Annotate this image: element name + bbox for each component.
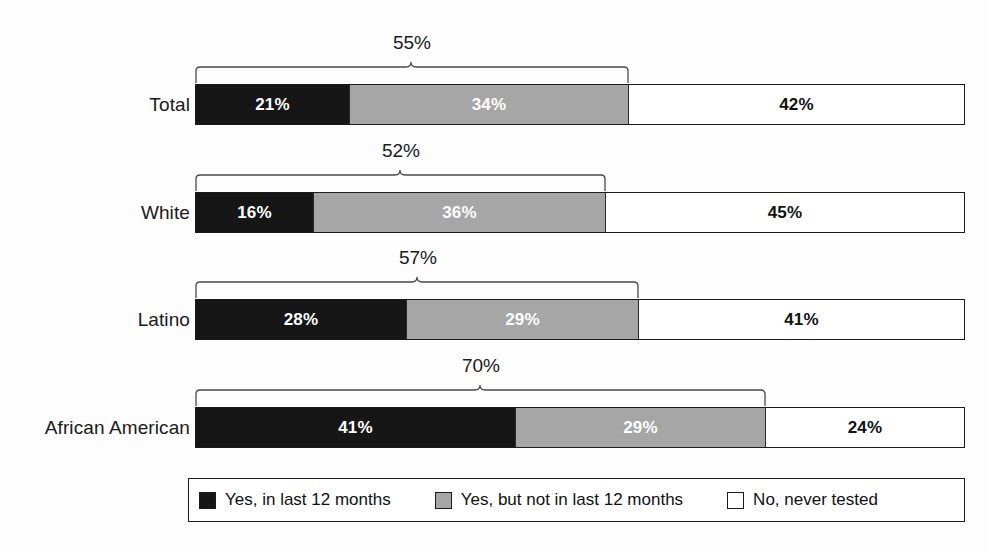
bar-segment-yes-last-12-months: 21%: [196, 85, 349, 124]
bracket-label-african-american: 70%: [462, 355, 500, 377]
stacked-bar-chart: Total 21% 34% 42% 55% White 16% 36% 45% …: [0, 0, 989, 550]
bar-segment-yes-not-last-12-months: 36%: [313, 193, 606, 232]
bar-segment-no-never-tested: 42%: [629, 85, 964, 124]
category-label-latino: Latino: [0, 309, 190, 331]
bar-segment-yes-last-12-months: 28%: [196, 300, 406, 339]
legend-swatch-gray-icon: [435, 492, 452, 509]
bracket-latino: [0, 0, 989, 550]
bar-segment-yes-not-last-12-months: 34%: [349, 85, 629, 124]
legend-item-yes-last-12-months: Yes, in last 12 months: [199, 490, 391, 510]
legend-item-no-never-tested: No, never tested: [727, 490, 878, 510]
bar-segment-no-never-tested: 41%: [639, 300, 964, 339]
bar-segment-no-never-tested: 24%: [766, 408, 964, 447]
bar-segment-no-never-tested: 45%: [606, 193, 964, 232]
bracket-african-american: [0, 0, 989, 550]
bar-segment-yes-last-12-months: 16%: [196, 193, 313, 232]
category-label-white: White: [0, 202, 190, 224]
legend-item-yes-not-last-12-months: Yes, but not in last 12 months: [435, 490, 683, 510]
legend-label: Yes, but not in last 12 months: [461, 490, 683, 510]
bracket-white: [0, 0, 989, 550]
stacked-bar-african-american: 41% 29% 24%: [195, 407, 965, 448]
stacked-bar-latino: 28% 29% 41%: [195, 299, 965, 340]
stacked-bar-total: 21% 34% 42%: [195, 84, 965, 125]
stacked-bar-white: 16% 36% 45%: [195, 192, 965, 233]
legend-swatch-dark-icon: [199, 492, 216, 509]
category-label-african-american: African American: [0, 417, 190, 439]
bracket-label-latino: 57%: [399, 247, 437, 269]
legend-label: No, never tested: [753, 490, 878, 510]
chart-legend: Yes, in last 12 months Yes, but not in l…: [188, 478, 965, 522]
bar-segment-yes-not-last-12-months: 29%: [515, 408, 766, 447]
bracket-total: [0, 0, 989, 550]
bar-segment-yes-last-12-months: 41%: [196, 408, 515, 447]
bar-segment-yes-not-last-12-months: 29%: [406, 300, 639, 339]
bracket-label-total: 55%: [393, 32, 431, 54]
category-label-total: Total: [0, 94, 190, 116]
legend-swatch-white-icon: [727, 492, 744, 509]
legend-label: Yes, in last 12 months: [225, 490, 391, 510]
bracket-label-white: 52%: [382, 140, 420, 162]
